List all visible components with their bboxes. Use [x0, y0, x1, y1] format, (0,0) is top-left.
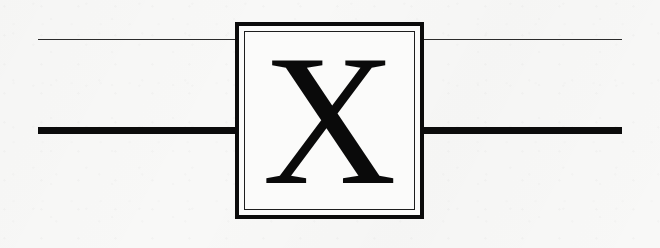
gate-label-x: X: [239, 54, 420, 188]
circuit-diagram-canvas: X: [0, 0, 660, 248]
pauli-x-gate-box[interactable]: X: [235, 22, 424, 219]
